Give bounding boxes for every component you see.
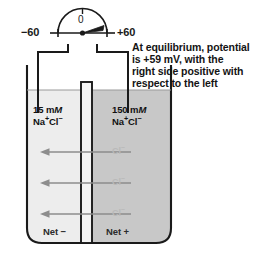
left-solute-anion: Cl [49,116,58,127]
ion-flux-charge-1: − [121,144,125,151]
ion-flux-label-1: Cl− [112,146,125,157]
left-solute-anion-charge: − [58,114,62,123]
right-solute-cation: Na [112,116,124,127]
left-concentration-value: 15 [33,104,43,115]
ion-flux-label-2: Cl− [112,177,125,188]
caption-line-2: is +59 mV, with the [132,53,223,65]
caption-line-4: respect to the left [132,77,218,89]
equilibrium-potential-diagram: 0 −60 +60 At equilibrium, potential is +… [0,0,259,257]
ion-flux-species-3: Cl [112,208,121,218]
right-net-charge-label: Net + [106,226,129,237]
caption-line-3: right side positive with [132,65,243,77]
ion-flux-charge-3: − [121,206,125,213]
left-net-charge-label: Net − [43,226,66,237]
left-solute-cation: Na [33,116,45,127]
ion-flux-species-2: Cl [112,177,121,187]
right-solute-anion-charge: − [137,114,141,123]
right-solute-label: Na+Cl− [112,116,141,127]
meter-right-scale-label: +60 [117,26,135,39]
ion-flux-species-1: Cl [112,146,121,156]
right-solute-anion: Cl [128,116,137,127]
ion-flux-label-3: Cl− [112,208,125,219]
semipermeable-membrane [81,82,92,243]
meter-zero-label: 0 [78,14,84,26]
meter-left-scale-label: −60 [21,26,39,39]
caption-line-1: At equilibrium, potential [132,41,250,53]
left-solute-label: Na+Cl− [33,116,62,127]
ion-flux-charge-2: − [121,175,125,182]
